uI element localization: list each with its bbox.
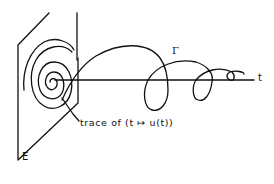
trace-leader <box>62 98 79 121</box>
plane-label-E: E <box>22 152 28 162</box>
axis-label-t: t <box>258 73 262 83</box>
spiral-trace <box>31 46 72 108</box>
curve-label-gamma: Γ <box>172 46 179 56</box>
diagram-canvas <box>0 0 274 184</box>
helix-gamma <box>62 46 244 111</box>
trace-label: trace of (t ↦ u(t)) <box>80 118 173 128</box>
